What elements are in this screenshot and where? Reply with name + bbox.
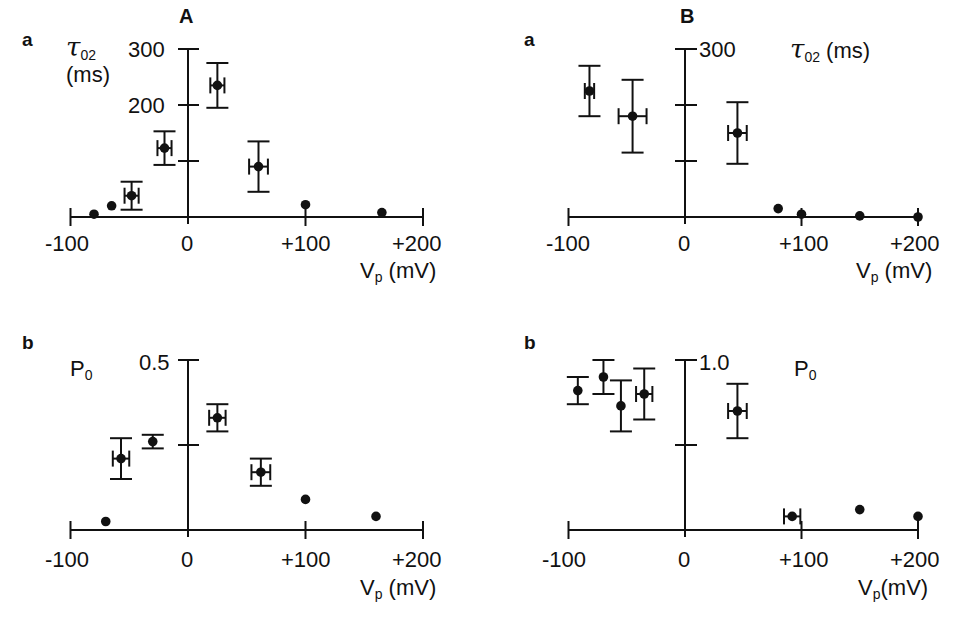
data-point-marker [599, 372, 609, 382]
data-point-marker [573, 386, 583, 396]
data-point-marker [628, 111, 638, 121]
data-point-marker [913, 512, 923, 522]
panel-label-B: B [680, 6, 694, 26]
data-point-marker [213, 413, 223, 423]
data-point-marker [639, 389, 649, 399]
mv-unit: (mV) [389, 258, 437, 283]
x-tick-p100-A-b: +100 [281, 549, 331, 571]
data-point-marker [855, 211, 865, 221]
y-axis-label-A-b: P0 [70, 358, 92, 380]
x-tick-p100-B-b: +100 [779, 549, 829, 571]
plot-A-a [70, 49, 423, 226]
data-point-marker [254, 162, 264, 172]
data-point-marker [116, 454, 126, 464]
x-axis-label-B-a: Vp (mV) [856, 260, 932, 282]
x-tick-0-B-a: 0 [678, 233, 690, 255]
x-tick-p200-A-b: +200 [392, 549, 442, 571]
x-tick-m100-A-a: -100 [45, 233, 89, 255]
data-point-marker [733, 406, 743, 416]
data-point-marker [148, 437, 158, 447]
v-subscript: p [375, 269, 383, 285]
p-symbol: P [70, 356, 85, 381]
v-subscript: p [873, 586, 881, 602]
subpanel-label-A-b: b [22, 333, 34, 352]
y-axis-unit-A-a: (ms) [66, 64, 110, 86]
data-point-marker [773, 204, 783, 214]
plot-A-b [70, 360, 423, 539]
p-symbol: P [794, 356, 809, 381]
y-tick-10-B-b: 1.0 [699, 352, 730, 374]
data-point-marker [585, 86, 595, 96]
v-symbol: V [856, 258, 871, 283]
data-point-marker [371, 512, 381, 522]
y-tick-05-A-b: 0.5 [139, 352, 170, 374]
data-point-marker [213, 81, 223, 91]
ms-unit: (ms) [826, 38, 870, 63]
data-point-marker [797, 209, 807, 219]
data-point-marker [377, 208, 387, 218]
mv-unit: (mV) [880, 575, 928, 600]
v-subscript: p [375, 586, 383, 602]
x-tick-p200-B-a: +200 [890, 233, 940, 255]
mv-unit: (mV) [885, 258, 933, 283]
x-axis-label-B-b: Vp(mV) [858, 577, 928, 599]
subpanel-label-A-a: a [22, 30, 33, 49]
x-tick-0-A-b: 0 [181, 549, 193, 571]
mv-unit: (mV) [389, 575, 437, 600]
data-point-marker [616, 401, 626, 411]
subpanel-label-B-b: b [524, 333, 536, 352]
data-point-marker [787, 512, 797, 522]
x-tick-p100-B-a: +100 [779, 233, 829, 255]
y-tick-200-A-a: 200 [128, 95, 165, 117]
data-point-marker [301, 495, 311, 505]
data-point-marker [127, 191, 137, 201]
tau-subscript: 02 [80, 47, 96, 63]
x-tick-0-B-b: 0 [678, 549, 690, 571]
data-point-marker [101, 517, 111, 527]
tau-symbol: τ [66, 32, 80, 62]
p-subscript: 0 [809, 367, 817, 383]
tau-subscript: 02 [804, 49, 820, 65]
x-tick-0-A-a: 0 [181, 233, 193, 255]
y-tick-300-B-a: 300 [699, 39, 736, 61]
v-subscript: p [871, 269, 879, 285]
x-tick-p200-B-b: +200 [890, 549, 940, 571]
data-point-marker [256, 467, 266, 477]
data-point-marker [160, 143, 170, 153]
data-point-marker [855, 505, 865, 515]
data-point-marker [89, 209, 99, 219]
data-point-marker [733, 128, 743, 138]
x-tick-m100-A-b: -100 [45, 549, 89, 571]
v-symbol: V [360, 575, 375, 600]
data-point-marker [913, 212, 923, 222]
x-tick-p200-A-a: +200 [392, 233, 442, 255]
data-point-marker [107, 201, 117, 211]
x-tick-p100-A-a: +100 [281, 233, 331, 255]
panel-label-A: A [179, 6, 193, 26]
plot-B-b [567, 360, 923, 539]
subpanel-label-B-a: a [524, 30, 535, 49]
tau-symbol: τ [790, 34, 804, 64]
p-subscript: 0 [85, 367, 93, 383]
v-symbol: V [360, 258, 375, 283]
plot-B-a [569, 49, 923, 226]
data-point-marker [301, 200, 311, 210]
x-axis-label-A-b: Vp (mV) [360, 577, 436, 599]
x-axis-label-A-a: Vp (mV) [360, 260, 436, 282]
y-axis-label-B-b: P0 [794, 358, 816, 380]
x-tick-m100-B-a: -100 [546, 233, 590, 255]
x-tick-m100-B-b: -100 [542, 549, 586, 571]
y-axis-label-A-a: τ02 [66, 34, 96, 60]
y-tick-300-A-a: 300 [128, 39, 165, 61]
y-axis-label-B-a: τ02 (ms) [790, 36, 870, 62]
v-symbol: V [858, 575, 873, 600]
